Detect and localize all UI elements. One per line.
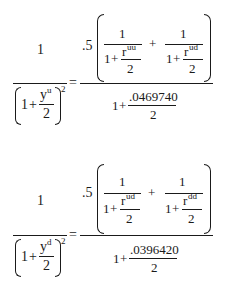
lhs-exponent: 2 bbox=[61, 85, 66, 94]
term1-one: 1 bbox=[103, 202, 110, 215]
term2-r-superscript: dd bbox=[188, 192, 197, 201]
lhs-y-denominator: 2 bbox=[43, 259, 50, 273]
term2-inner-bar bbox=[182, 209, 202, 210]
lhs-exponent: 2 bbox=[61, 237, 66, 246]
term1-r-var: r bbox=[121, 194, 125, 207]
term1-numerator: 1 bbox=[119, 175, 126, 188]
rhs-denom-one: 1 bbox=[112, 99, 119, 112]
rhs-left-paren bbox=[97, 164, 104, 234]
equation-2: 1 1 + y d 2 2 = .5 1 1 + r ud 2 + 1 1 + … bbox=[0, 148, 228, 289]
rhs-rate-denominator: 2 bbox=[150, 108, 157, 121]
rhs-denom-plus: + bbox=[119, 99, 126, 112]
lhs-numerator: 1 bbox=[37, 43, 44, 57]
term1-inner-bar bbox=[121, 59, 141, 60]
term2-numerator: 1 bbox=[180, 27, 187, 40]
term2-numerator: 1 bbox=[179, 175, 186, 188]
rhs-denom-plus: + bbox=[120, 252, 127, 265]
rhs-right-paren bbox=[204, 14, 211, 82]
rhs-coefficient: .5 bbox=[82, 186, 93, 200]
term1-inner-bar bbox=[120, 209, 140, 210]
term1-r-var: r bbox=[122, 45, 126, 58]
rhs-left-paren bbox=[97, 14, 104, 82]
lhs-numerator: 1 bbox=[37, 194, 44, 208]
rhs-right-paren bbox=[204, 164, 211, 234]
rhs-rate-denominator: 2 bbox=[151, 261, 158, 274]
rhs-rate-bar bbox=[128, 105, 176, 106]
lhs-denom-one: 1 bbox=[21, 250, 28, 264]
term2-r-denominator: 2 bbox=[189, 62, 196, 75]
term2-r-var: r bbox=[183, 194, 187, 207]
term2-r-superscript: ud bbox=[189, 43, 198, 52]
lhs-y-denominator: 2 bbox=[43, 107, 50, 121]
term2-r-var: r bbox=[184, 45, 188, 58]
lhs-denom-one: 1 bbox=[21, 98, 28, 112]
lhs-denom-plus: + bbox=[29, 98, 37, 112]
lhs-y-var: y bbox=[40, 88, 47, 102]
term2-plus: + bbox=[172, 202, 179, 215]
lhs-y-var: y bbox=[40, 240, 47, 254]
lhs-denom-plus: + bbox=[29, 250, 37, 264]
rhs-rate: .0396420 bbox=[130, 243, 179, 256]
term1-r-denominator: 2 bbox=[127, 62, 134, 75]
equals-sign: = bbox=[69, 76, 77, 90]
rhs-fraction-bar bbox=[80, 83, 213, 84]
term2-plus: + bbox=[173, 52, 180, 65]
rhs-fraction-bar bbox=[80, 235, 213, 236]
equation-1: 1 1 + y u 2 2 = .5 1 1 + r uu 2 + 1 1 + … bbox=[0, 0, 228, 145]
equals-sign: = bbox=[69, 228, 77, 242]
term1-r-denominator: 2 bbox=[126, 212, 133, 225]
rhs-rate: .0469740 bbox=[129, 90, 178, 103]
lhs-y-superscript: d bbox=[47, 238, 52, 247]
term2-r-denominator: 2 bbox=[188, 212, 195, 225]
term2-inner-bar bbox=[183, 59, 203, 60]
rhs-coefficient: .5 bbox=[82, 39, 93, 53]
term1-one: 1 bbox=[104, 52, 111, 65]
term1-plus: + bbox=[110, 202, 117, 215]
term2-one: 1 bbox=[166, 52, 173, 65]
term2-one: 1 bbox=[165, 202, 172, 215]
lhs-fraction-bar bbox=[13, 235, 67, 236]
term1-r-superscript: ud bbox=[126, 192, 135, 201]
between-plus: + bbox=[148, 186, 155, 199]
rhs-denom-one: 1 bbox=[113, 252, 120, 265]
rhs-rate-bar bbox=[129, 258, 177, 259]
term1-r-superscript: uu bbox=[127, 43, 136, 52]
term1-numerator: 1 bbox=[119, 27, 126, 40]
term1-plus: + bbox=[111, 52, 118, 65]
lhs-inner-bar bbox=[39, 256, 54, 257]
lhs-inner-bar bbox=[39, 104, 54, 105]
between-plus: + bbox=[149, 37, 156, 50]
lhs-fraction-bar bbox=[13, 83, 67, 84]
lhs-y-superscript: u bbox=[47, 86, 52, 95]
